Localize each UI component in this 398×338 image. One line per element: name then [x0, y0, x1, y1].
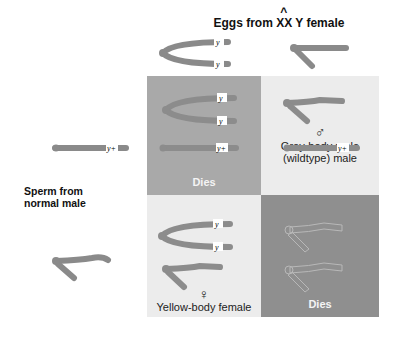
svg-text:y: y: [218, 94, 223, 103]
sperm-x-chromosome: y+: [53, 143, 127, 153]
svg-text:y: y: [214, 220, 219, 229]
svg-text:y+: y+: [216, 144, 226, 153]
svg-text:y+: y+: [337, 144, 347, 153]
svg-text:y: y: [218, 117, 223, 126]
svg-text:y: y: [214, 243, 219, 252]
chromosomes-overlay: y+ y y y+ y+ y y: [0, 0, 398, 338]
svg-text:y+: y+: [106, 144, 116, 153]
